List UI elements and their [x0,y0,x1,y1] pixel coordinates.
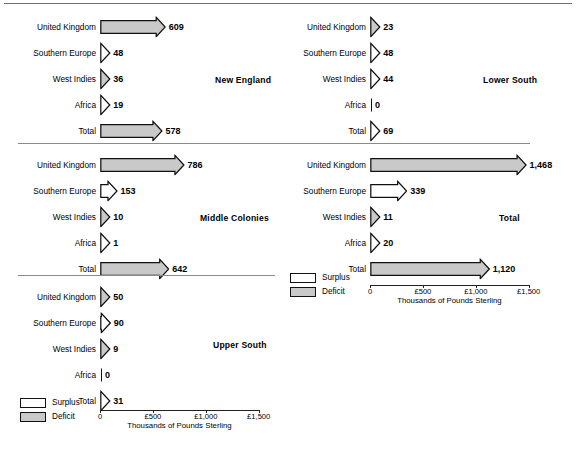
table-row: Southern Europe48 [0,40,576,66]
row-label: Southern Europe [33,319,96,327]
row-label: Africa [345,101,366,109]
axis-tick-label: £500 [414,288,431,296]
surplus-bar [370,68,381,89]
row-value: 0 [375,101,380,110]
axis-tick-label: £1,000 [464,288,487,296]
row-value: 90 [114,319,124,328]
row-value: 50 [113,293,123,302]
deficit-bar [370,154,527,175]
row-label: Total [348,127,366,135]
legend-label: Surplus [52,398,80,408]
legend-swatch-deficit [20,412,46,422]
deficit-bar [370,258,490,279]
axis-caption: Thousands of Pounds Sterling [127,422,231,430]
legend-item: Surplus [290,273,380,284]
table-row: Southern Europe339 [0,178,576,204]
row-label: Africa [345,239,366,247]
table-row: West Indies9 [0,336,576,362]
deficit-bar [370,16,381,37]
row-label: Total [348,265,366,273]
table-row: Southern Europe90 [0,310,576,336]
surplus-bar [370,42,381,63]
legend-label: Deficit [322,287,345,297]
legend-swatch-surplus [20,398,46,408]
legend-item: Deficit [20,412,110,423]
table-row: Total69 [0,118,576,144]
row-value: 11 [383,213,393,222]
table-row: West Indies11 [0,204,576,230]
legend-label: Deficit [52,412,75,422]
deficit-bar [370,206,381,227]
panel-separator-rule [18,275,275,276]
chart-figure: New EnglandUnited Kingdom609Southern Eur… [0,0,576,451]
surplus-bar [370,120,381,141]
zero-tick-mark [371,99,372,112]
deficit-bar [100,338,111,359]
table-row: United Kingdom23 [0,14,576,40]
row-label: West Indies [53,345,96,353]
surplus-bar [370,180,407,201]
row-value: 48 [383,49,393,58]
row-value: 1,468 [530,161,553,170]
axis-line [370,285,529,286]
panel-separator-rule [18,143,275,144]
axis-tick-label: £500 [144,413,161,421]
row-value: 0 [105,371,110,380]
axis-caption: Thousands of Pounds Sterling [397,297,501,305]
table-row: Total1,120 [0,256,576,282]
legend-item: Surplus [20,398,110,409]
row-value: 1,120 [493,265,516,274]
table-row: Africa0 [0,92,576,118]
row-value: 20 [383,239,393,248]
axis-tick-label: £1,000 [194,413,217,421]
legend-swatch-surplus [290,273,316,283]
table-row: West Indies44 [0,66,576,92]
row-label: Africa [75,371,96,379]
axis-line [100,410,259,411]
table-row: Africa0 [0,362,576,388]
row-label: West Indies [323,213,366,221]
row-value: 44 [383,75,393,84]
row-value: 31 [113,397,123,406]
row-label: Southern Europe [303,187,366,195]
row-value: 69 [383,127,393,136]
axis-tick-label: £1,500 [247,413,270,421]
row-label: Southern Europe [303,49,366,57]
surplus-bar [370,232,381,253]
row-value: 23 [383,23,393,32]
legend-label: Surplus [322,273,350,283]
deficit-bar [100,286,111,307]
table-row: United Kingdom1,468 [0,152,576,178]
panel-separator-rule [268,143,530,144]
row-label: United Kingdom [307,161,366,169]
row-value: 9 [113,345,118,354]
row-label: West Indies [323,75,366,83]
figure-top-rule [4,3,572,4]
zero-tick-mark [101,369,102,382]
table-row: Africa20 [0,230,576,256]
surplus-bar [100,312,111,333]
row-label: United Kingdom [37,293,96,301]
axis-tick-label: £1,500 [517,288,540,296]
row-label: United Kingdom [307,23,366,31]
row-value: 339 [410,187,425,196]
legend-item: Deficit [290,287,380,298]
legend-swatch-deficit [290,287,316,297]
